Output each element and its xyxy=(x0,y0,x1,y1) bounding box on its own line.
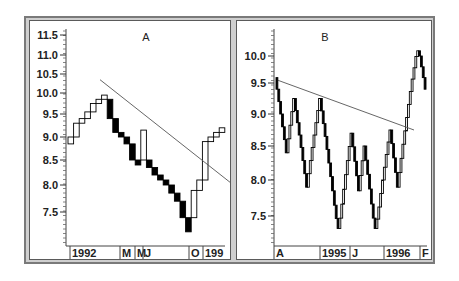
chart-panel-a: 11.511.010.510.09.59.08.58.07.51992MMJO1… xyxy=(29,20,231,260)
down-brick xyxy=(304,161,306,174)
up-brick xyxy=(378,207,380,219)
down-brick xyxy=(107,99,113,118)
down-brick xyxy=(158,175,164,180)
down-brick xyxy=(422,67,424,78)
y-tick-label: 9.0 xyxy=(251,108,266,120)
up-brick xyxy=(79,119,85,124)
up-brick xyxy=(402,144,404,158)
y-tick-label: 8.5 xyxy=(251,140,266,152)
up-brick xyxy=(287,139,289,153)
down-brick xyxy=(283,127,285,140)
x-tick-label: M xyxy=(122,247,131,259)
up-brick xyxy=(102,95,108,99)
down-brick xyxy=(302,147,304,160)
chart-title: A xyxy=(142,31,150,43)
up-brick xyxy=(398,173,400,188)
down-brick xyxy=(332,177,334,191)
up-brick xyxy=(191,190,197,217)
up-brick xyxy=(313,135,315,147)
up-brick xyxy=(400,158,402,172)
chart-b-plot: 10.09.59.08.58.07.5A1995J1996FB xyxy=(237,21,431,259)
y-tick-label: 8.0 xyxy=(43,179,58,191)
up-brick xyxy=(361,161,363,176)
down-brick xyxy=(369,174,371,189)
up-brick xyxy=(411,79,413,91)
x-tick-label: 199 xyxy=(205,247,223,259)
down-brick xyxy=(146,160,152,168)
bricks xyxy=(276,51,426,229)
down-brick xyxy=(180,201,186,217)
y-tick-label: 9.5 xyxy=(251,77,266,89)
down-brick xyxy=(356,161,358,175)
down-brick xyxy=(320,99,322,111)
up-brick xyxy=(291,112,293,126)
up-brick xyxy=(141,130,147,160)
up-brick xyxy=(197,180,203,190)
chart-panel-b: 10.09.59.08.58.07.5A1995J1996FB xyxy=(236,20,432,260)
up-brick xyxy=(315,123,317,135)
up-brick xyxy=(346,161,348,175)
x-tick-label: 1992 xyxy=(72,247,96,259)
y-tick-label: 9.0 xyxy=(43,131,58,143)
up-brick xyxy=(343,189,345,204)
down-brick xyxy=(393,144,395,158)
y-tick-label: 11.5 xyxy=(37,29,58,41)
y-tick-label: 10.5 xyxy=(37,68,58,80)
down-brick xyxy=(335,205,337,218)
up-brick xyxy=(383,167,385,180)
up-brick xyxy=(406,117,408,130)
x-tick-label: F xyxy=(422,247,429,259)
down-brick xyxy=(324,124,326,137)
down-brick xyxy=(333,191,335,205)
up-brick xyxy=(348,146,350,160)
up-brick xyxy=(68,137,74,144)
down-brick xyxy=(370,189,372,204)
bricks xyxy=(68,95,225,232)
down-brick xyxy=(395,158,397,172)
up-brick xyxy=(311,147,313,160)
up-brick xyxy=(385,155,387,168)
down-brick xyxy=(365,146,367,160)
down-brick xyxy=(328,149,330,163)
down-brick xyxy=(295,99,297,111)
down-brick xyxy=(118,132,124,137)
up-brick xyxy=(74,123,80,137)
down-brick xyxy=(174,193,180,201)
up-brick xyxy=(415,56,417,67)
chart-title: B xyxy=(321,31,328,43)
up-brick xyxy=(208,137,214,142)
up-brick xyxy=(96,99,102,103)
down-brick xyxy=(420,56,422,67)
chart-frame: 11.511.010.510.09.59.08.58.07.51992MMJO1… xyxy=(24,16,435,264)
y-tick-label: 9.5 xyxy=(43,108,58,120)
up-brick xyxy=(309,161,311,174)
down-brick xyxy=(354,147,356,161)
down-brick xyxy=(163,180,169,185)
y-tick-label: 8.0 xyxy=(251,174,266,186)
down-brick xyxy=(169,185,175,193)
y-tick-label: 11.0 xyxy=(37,49,58,61)
down-brick xyxy=(296,110,298,122)
up-brick xyxy=(345,175,347,190)
y-tick-label: 7.5 xyxy=(251,210,266,222)
up-brick xyxy=(90,104,96,112)
y-tick-label: 10.0 xyxy=(245,50,266,62)
up-brick xyxy=(404,131,406,144)
up-brick xyxy=(339,218,341,228)
up-brick xyxy=(307,174,309,188)
up-brick xyxy=(382,180,384,194)
y-tick-label: 10.0 xyxy=(37,87,58,99)
down-brick xyxy=(280,102,282,114)
up-brick xyxy=(219,128,225,133)
down-brick xyxy=(298,123,300,135)
chart-a-plot: 11.511.010.510.09.59.08.58.07.51992MMJO1… xyxy=(30,21,230,259)
down-brick xyxy=(282,114,284,127)
down-brick xyxy=(372,204,374,218)
y-tick-label: 7.5 xyxy=(43,206,58,218)
up-brick xyxy=(317,110,319,122)
down-brick xyxy=(152,168,158,176)
down-brick xyxy=(419,51,421,56)
up-brick xyxy=(341,204,343,218)
up-brick xyxy=(359,175,361,190)
up-brick xyxy=(407,104,409,117)
